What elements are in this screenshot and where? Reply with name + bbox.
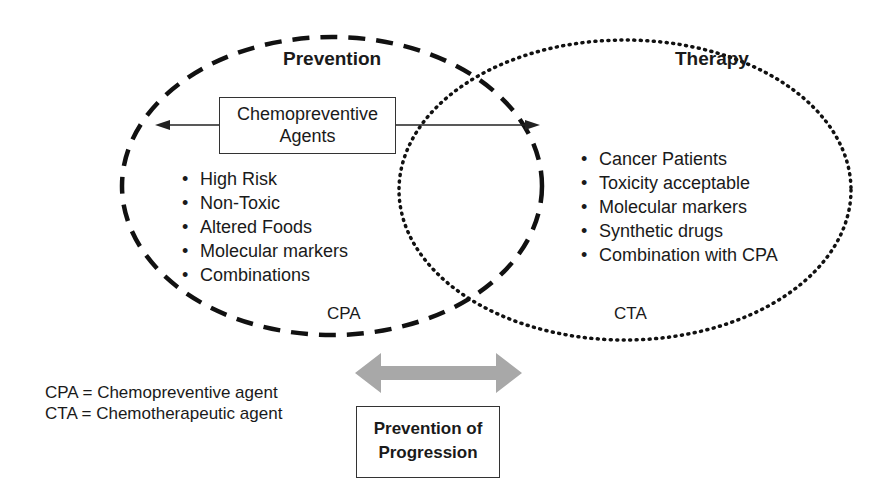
progression-box-line2: Progression — [357, 441, 499, 465]
chemopreventive-agents-box: Chemopreventive Agents — [219, 97, 396, 154]
list-item: Synthetic drugs — [581, 219, 778, 243]
cpa-label: CPA — [327, 304, 361, 324]
list-item: Toxicity acceptable — [581, 171, 778, 195]
agents-box-line1: Chemopreventive — [220, 103, 395, 125]
list-item: Combinations — [182, 263, 348, 287]
list-item: Molecular markers — [581, 195, 778, 219]
agents-box-line2: Agents — [220, 125, 395, 147]
progression-box-line1: Prevention of — [357, 417, 499, 441]
cta-label: CTA — [614, 304, 647, 324]
prevention-heading: Prevention — [283, 48, 381, 70]
arrowhead-left-icon — [155, 120, 170, 130]
list-item: Molecular markers — [182, 239, 348, 263]
prevention-list: High Risk Non-Toxic Altered Foods Molecu… — [182, 167, 348, 287]
prevention-of-progression-box: Prevention of Progression — [356, 406, 500, 478]
list-item: Combination with CPA — [581, 243, 778, 267]
progression-double-arrow-icon — [355, 353, 522, 393]
therapy-list: Cancer Patients Toxicity acceptable Mole… — [581, 147, 778, 267]
list-item: Cancer Patients — [581, 147, 778, 171]
arrowhead-right-icon — [525, 120, 540, 130]
therapy-heading: Therapy — [675, 48, 749, 70]
list-item: High Risk — [182, 167, 348, 191]
list-item: Non-Toxic — [182, 191, 348, 215]
legend-cpa: CPA = Chemopreventive agent — [45, 383, 278, 403]
legend-cta: CTA = Chemotherapeutic agent — [45, 404, 282, 424]
list-item: Altered Foods — [182, 215, 348, 239]
